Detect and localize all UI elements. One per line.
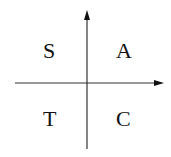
horizontal-arrowhead-icon [154, 80, 164, 86]
quadrant-axes [0, 0, 171, 157]
quadrant-label-top-left: S [43, 40, 55, 62]
vertical-arrowhead-icon [84, 10, 90, 20]
quadrant-label-top-right: A [116, 40, 132, 62]
quadrant-label-bottom-right: C [116, 108, 131, 130]
quadrant-label-bottom-left: T [43, 108, 56, 130]
